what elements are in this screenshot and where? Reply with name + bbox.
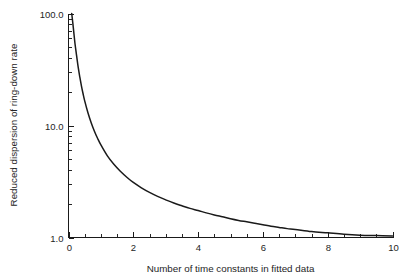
x-tick-label: 8 [326,242,331,253]
x-tick-label: 0 [67,242,72,253]
y-axis-title: Reduced dispersion of ring-down rate [8,43,19,206]
x-tick-label: 4 [196,242,201,253]
x-tick-label: 10 [388,242,399,253]
y-tick-label: 1.0 [50,233,63,244]
y-axis-tick-labels: 1.010.0100.0 [40,9,64,244]
axes-spines [69,14,393,238]
x-axis-tick-labels: 0246810 [67,242,399,253]
chart-canvas: 1.010.0100.0 0246810 Number of time cons… [0,0,410,279]
x-axis-title: Number of time constants in fitted data [147,263,315,274]
y-axis-ticks [69,15,75,239]
y-tick-label: 10.0 [45,121,64,132]
figure-container: 1.010.0100.0 0246810 Number of time cons… [0,0,410,279]
x-tick-label: 6 [261,242,266,253]
y-tick-label: 100.0 [40,9,64,20]
data-curve-series-0 [72,14,393,237]
x-tick-label: 2 [131,242,136,253]
